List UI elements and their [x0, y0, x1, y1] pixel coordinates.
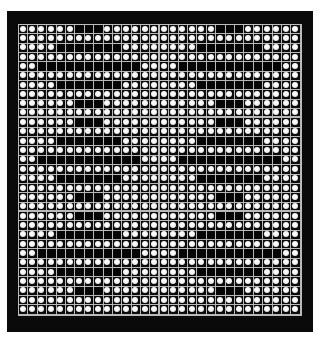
lit-dot-icon: [47, 165, 56, 174]
lit-dot-icon: [141, 184, 150, 193]
lit-dot-icon: [273, 268, 282, 277]
lit-dot-icon: [38, 109, 47, 118]
unlit-cell: [263, 249, 272, 258]
lit-dot-icon: [28, 156, 37, 165]
unlit-cell: [226, 193, 235, 202]
lit-dot-icon: [150, 137, 159, 146]
lit-dot-icon: [19, 44, 28, 53]
lit-dot-icon: [263, 203, 272, 212]
lit-dot-icon: [75, 305, 84, 314]
lit-dot-icon: [66, 287, 75, 296]
lit-dot-icon: [235, 259, 244, 268]
lit-dot-icon: [75, 296, 84, 305]
lit-dot-icon: [179, 72, 188, 81]
unlit-cell: [216, 81, 225, 90]
lit-dot-icon: [169, 90, 178, 99]
lit-dot-icon: [113, 90, 122, 99]
unlit-cell: [273, 156, 282, 165]
lit-dot-icon: [150, 296, 159, 305]
lit-dot-icon: [254, 193, 263, 202]
lit-dot-icon: [57, 128, 66, 137]
unlit-cell: [104, 231, 113, 240]
lit-dot-icon: [291, 212, 300, 221]
lit-dot-icon: [19, 175, 28, 184]
lit-dot-icon: [244, 212, 253, 221]
unlit-cell: [122, 249, 131, 258]
lit-dot-icon: [291, 165, 300, 174]
unlit-cell: [226, 44, 235, 53]
lit-dot-icon: [141, 296, 150, 305]
lit-dot-icon: [66, 53, 75, 62]
unlit-cell: [85, 81, 94, 90]
lit-dot-icon: [235, 277, 244, 286]
unlit-cell: [216, 44, 225, 53]
lit-dot-icon: [47, 231, 56, 240]
unlit-cell: [235, 137, 244, 146]
lit-dot-icon: [226, 128, 235, 137]
lit-dot-icon: [207, 100, 216, 109]
lit-dot-icon: [263, 305, 272, 314]
lit-dot-icon: [150, 100, 159, 109]
unlit-cell: [226, 62, 235, 71]
lit-dot-icon: [19, 109, 28, 118]
lit-dot-icon: [104, 109, 113, 118]
lit-dot-icon: [254, 72, 263, 81]
lit-dot-icon: [141, 287, 150, 296]
lit-dot-icon: [57, 203, 66, 212]
unlit-cell: [75, 175, 84, 184]
lit-dot-icon: [160, 156, 169, 165]
lit-dot-icon: [57, 277, 66, 286]
lit-dot-icon: [28, 240, 37, 249]
unlit-cell: [66, 175, 75, 184]
unlit-cell: [207, 62, 216, 71]
lit-dot-icon: [28, 128, 37, 137]
lit-dot-icon: [150, 287, 159, 296]
lit-dot-icon: [47, 277, 56, 286]
lit-dot-icon: [263, 118, 272, 127]
lit-dot-icon: [197, 90, 206, 99]
lit-dot-icon: [254, 118, 263, 127]
lit-dot-icon: [66, 90, 75, 99]
lit-dot-icon: [282, 165, 291, 174]
lit-dot-icon: [104, 100, 113, 109]
lit-dot-icon: [47, 240, 56, 249]
unlit-cell: [132, 62, 141, 71]
lit-dot-icon: [75, 128, 84, 137]
unlit-cell: [75, 62, 84, 71]
lit-dot-icon: [104, 34, 113, 43]
lit-dot-icon: [104, 193, 113, 202]
lit-dot-icon: [19, 128, 28, 137]
unlit-cell: [254, 156, 263, 165]
lit-dot-icon: [141, 277, 150, 286]
lit-dot-icon: [282, 81, 291, 90]
lit-dot-icon: [85, 305, 94, 314]
unlit-cell: [104, 268, 113, 277]
lit-dot-icon: [235, 165, 244, 174]
lit-dot-icon: [28, 193, 37, 202]
lit-dot-icon: [141, 137, 150, 146]
lit-dot-icon: [66, 184, 75, 193]
lit-dot-icon: [254, 146, 263, 155]
lit-dot-icon: [263, 137, 272, 146]
unlit-cell: [104, 175, 113, 184]
lit-dot-icon: [132, 34, 141, 43]
lit-dot-icon: [113, 240, 122, 249]
unlit-cell: [226, 118, 235, 127]
lit-dot-icon: [94, 34, 103, 43]
lit-dot-icon: [160, 44, 169, 53]
lit-dot-icon: [273, 34, 282, 43]
lit-dot-icon: [47, 212, 56, 221]
lit-dot-icon: [85, 184, 94, 193]
lit-dot-icon: [273, 184, 282, 193]
lit-dot-icon: [113, 203, 122, 212]
unlit-cell: [57, 62, 66, 71]
lit-dot-icon: [47, 184, 56, 193]
lit-dot-icon: [160, 90, 169, 99]
unlit-cell: [254, 175, 263, 184]
lit-dot-icon: [216, 165, 225, 174]
lit-dot-icon: [160, 268, 169, 277]
lit-dot-icon: [38, 100, 47, 109]
lit-dot-icon: [19, 193, 28, 202]
lit-dot-icon: [122, 268, 131, 277]
lit-dot-icon: [244, 193, 253, 202]
